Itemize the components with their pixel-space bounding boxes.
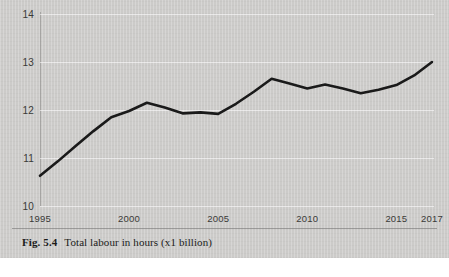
figure-caption: Fig. 5.4Total labour in hours (x1 billio… [22, 236, 212, 248]
x-tick-label-1995: 1995 [29, 213, 51, 224]
y-tick-label-11: 11 [23, 153, 34, 164]
x-tick-label-2005: 2005 [207, 213, 229, 224]
chart-plot-area: 1413121110 199520002005201020152017 [40, 14, 432, 206]
y-tick-label-12: 12 [22, 105, 34, 116]
x-tick-label-2000: 2000 [118, 213, 140, 224]
x-tick-label-2015: 2015 [385, 213, 407, 224]
gridline-y-10 [40, 206, 434, 207]
y-tick-label-14: 14 [22, 9, 34, 20]
caption-divider [12, 228, 437, 229]
series-polyline [40, 62, 432, 176]
figure-container: 1413121110 199520002005201020152017 Fig.… [0, 0, 449, 258]
line-series-total-labour [40, 14, 432, 206]
x-tick-label-2017: 2017 [421, 213, 443, 224]
figure-caption-text: Total labour in hours (x1 billion) [64, 236, 212, 248]
x-tick-label-2010: 2010 [296, 213, 318, 224]
y-tick-label-13: 13 [22, 57, 34, 68]
figure-number: Fig. 5.4 [22, 236, 57, 248]
y-tick-label-10: 10 [22, 201, 34, 212]
